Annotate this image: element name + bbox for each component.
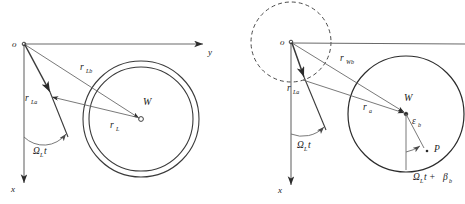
left-label-rL-base: r — [110, 120, 114, 130]
left-center-marker-w — [139, 117, 144, 122]
right-label-epsilon-sub: b — [418, 122, 421, 128]
left-label-rL-sub: L — [115, 126, 120, 132]
left-center-label-w: W — [143, 96, 153, 107]
left-label-rLb-base: r — [80, 62, 84, 72]
left-vector-rLa — [25, 45, 50, 92]
right-point-p-marker — [426, 150, 429, 153]
right-y-axis — [291, 43, 465, 44]
right-label-rWb-sub: Wb — [346, 59, 354, 65]
left-label-rLa-base: r — [25, 93, 29, 103]
right-label-epsilon-b: ε b — [412, 116, 421, 128]
left-angle-arc — [24, 134, 66, 145]
right-label-rLa-sub: La — [292, 89, 299, 95]
left-label-rLb-sub: Lb — [85, 68, 92, 74]
left-label-rLb: r Lb — [80, 62, 92, 74]
right-angle-arc — [291, 127, 324, 136]
right-label-beta-t-plus: t + — [424, 172, 435, 182]
right-label-rWb: r Wb — [340, 53, 354, 65]
right-label-epsilon-base: ε — [412, 116, 416, 126]
right-label-beta-sub: b — [449, 178, 452, 184]
right-label-ra: r a — [363, 102, 372, 114]
right-label-beta-omega: Ω — [413, 172, 420, 182]
right-epsilon-arc — [406, 146, 420, 152]
right-origin-label: o — [280, 37, 285, 47]
left-label-rL: r L — [110, 120, 120, 132]
left-vector-rLb — [24, 44, 139, 118]
figure-container: o y x W r Lb r La r L Ω L t — [0, 0, 465, 204]
right-arm-extension — [304, 77, 326, 130]
right-label-ra-base: r — [363, 102, 367, 112]
right-label-omega-lt: Ω L t — [297, 140, 311, 152]
right-label-omega-t: t — [308, 140, 311, 150]
left-vector-rL — [52, 97, 140, 118]
left-label-rLa: r La — [25, 93, 37, 105]
technical-diagram-svg: o y x W r Lb r La r L Ω L t — [0, 0, 465, 204]
left-outer-circle — [83, 61, 199, 177]
left-label-rLa-sub: La — [30, 99, 37, 105]
right-label-omega: Ω — [297, 140, 304, 150]
right-label-beta-expression: Ω L t + β b — [413, 172, 452, 184]
left-label-omega-t: t — [44, 146, 47, 156]
right-label-ra-sub: a — [369, 108, 372, 114]
left-x-axis-label: x — [10, 184, 15, 194]
right-vector-ra — [303, 80, 404, 113]
right-center-label-w: W — [404, 92, 414, 103]
right-point-label-p: P — [433, 144, 440, 154]
left-y-axis-label: y — [207, 47, 212, 57]
right-diagram-group: o x W P r Wb r La r a ε b Ω L — [251, 2, 465, 195]
right-vector-rLa — [292, 43, 304, 77]
left-inner-circle — [89, 67, 193, 171]
left-diagram-group: o y x W r Lb r La r L Ω L t — [10, 39, 212, 194]
right-label-rLa: r La — [287, 83, 299, 95]
right-label-rWb-base: r — [340, 53, 344, 63]
right-label-beta-base: β — [442, 172, 448, 182]
left-label-omega: Ω — [33, 146, 40, 156]
left-label-omega-lt: Ω L t — [33, 146, 47, 158]
left-origin-label: o — [12, 39, 17, 49]
right-x-axis-label: x — [277, 185, 282, 195]
right-label-rLa-base: r — [287, 83, 291, 93]
